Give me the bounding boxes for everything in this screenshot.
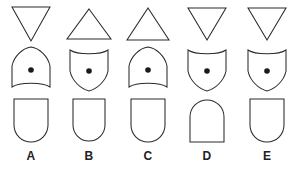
- rounded-bottom-shape-icon: [9, 97, 53, 145]
- figure-b-top: [60, 4, 118, 46]
- center-dot-icon: [28, 67, 34, 73]
- shield-pointed-bottom-icon: [183, 46, 231, 94]
- shield-pointed-bottom-icon: [65, 46, 113, 94]
- rounded-bottom-shape-icon: [126, 97, 170, 145]
- figure-d-middle: [178, 46, 236, 96]
- figure-e-bottom: [238, 97, 296, 145]
- figure-a-top: [2, 4, 60, 46]
- center-dot-icon: [145, 67, 151, 73]
- shield-pointed-bottom-icon: [243, 46, 291, 94]
- option-column-a[interactable]: A: [2, 0, 60, 174]
- shield-pointed-top-icon: [124, 46, 172, 94]
- figure-c-middle: [119, 46, 177, 96]
- shield-pointed-top-icon: [7, 46, 55, 94]
- option-column-c[interactable]: C: [119, 0, 177, 174]
- center-dot-icon: [86, 68, 92, 74]
- center-dot-icon: [264, 68, 270, 74]
- option-label-c: C: [119, 148, 177, 164]
- option-label-b: B: [60, 148, 118, 164]
- figure-d-bottom: [178, 97, 236, 145]
- figure-a-bottom: [2, 97, 60, 145]
- figure-c-top: [119, 4, 177, 46]
- puzzle-board: A B: [0, 0, 301, 174]
- triangle-down-icon: [244, 4, 290, 44]
- option-column-d[interactable]: D: [178, 0, 236, 174]
- figure-e-middle: [238, 46, 296, 96]
- rounded-bottom-shape-icon: [67, 97, 111, 145]
- figure-b-middle: [60, 46, 118, 96]
- triangle-down-icon: [8, 4, 54, 44]
- option-label-a: A: [2, 148, 60, 164]
- center-dot-icon: [204, 68, 210, 74]
- triangle-up-icon: [123, 4, 173, 44]
- option-label-d: D: [178, 148, 236, 164]
- figure-c-bottom: [119, 97, 177, 145]
- rounded-top-shape-icon: [185, 97, 229, 145]
- figure-a-middle: [2, 46, 60, 96]
- option-column-e[interactable]: E: [238, 0, 296, 174]
- figure-e-top: [238, 4, 296, 46]
- option-column-b[interactable]: B: [60, 0, 118, 174]
- figure-b-bottom: [60, 97, 118, 145]
- triangle-down-icon: [184, 4, 230, 44]
- triangle-up-icon: [64, 4, 114, 44]
- option-label-e: E: [238, 148, 296, 164]
- rounded-bottom-shape-icon: [245, 97, 289, 145]
- figure-d-top: [178, 4, 236, 46]
